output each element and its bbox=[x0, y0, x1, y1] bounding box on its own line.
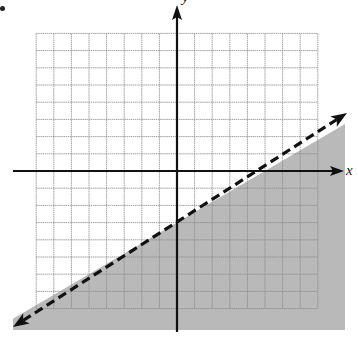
x-axis-label: x bbox=[346, 163, 353, 178]
coordinate-plane bbox=[0, 0, 358, 344]
y-axis-label: y bbox=[182, 0, 189, 5]
shaded-region bbox=[13, 124, 345, 330]
